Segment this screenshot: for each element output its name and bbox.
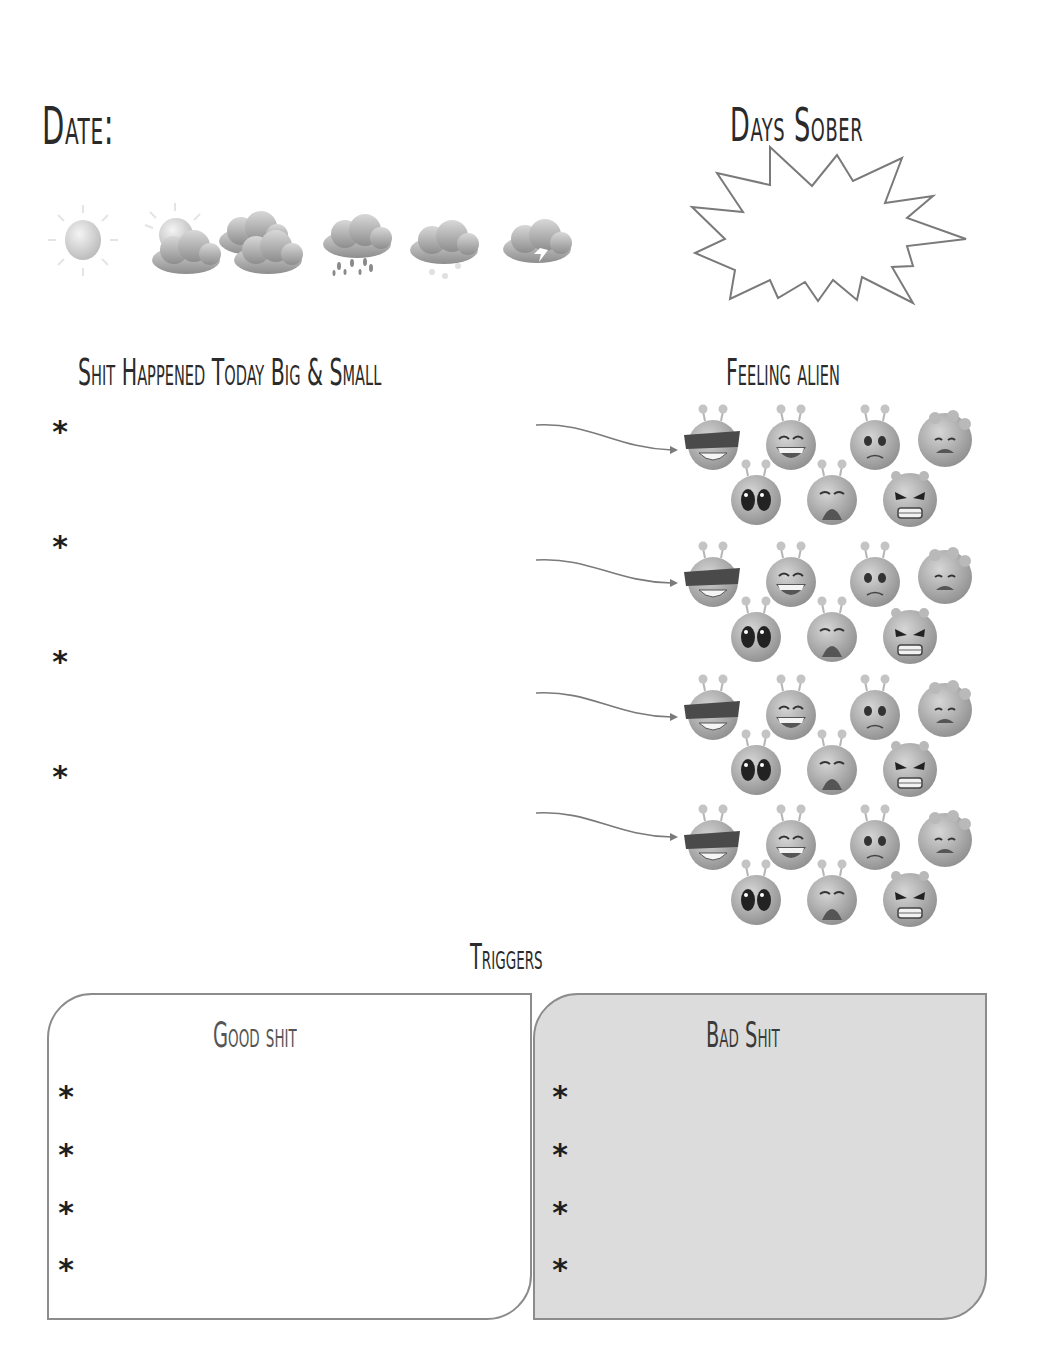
bad-triggers-title: Bad Shit [706,1014,780,1055]
good-bullet-2: * [58,1140,74,1170]
bad-bullet-4: * [552,1255,568,1285]
bad-bullet-3: * [552,1198,568,1228]
triggers-title: Triggers [470,936,543,977]
bad-entry-3[interactable] [580,1198,970,1232]
good-entry-4[interactable] [85,1255,515,1289]
good-bullet-4: * [58,1255,74,1285]
mood-group-2[interactable] [684,542,972,665]
mood-group-3[interactable] [684,675,972,798]
bad-entry-4[interactable] [580,1255,970,1289]
good-entry-3[interactable] [85,1198,515,1232]
bad-bullet-1: * [552,1082,568,1112]
bad-entry-1[interactable] [580,1082,970,1116]
good-triggers-title: Good shit [213,1014,297,1055]
bad-bullet-2: * [552,1140,568,1170]
good-entry-2[interactable] [85,1140,515,1174]
good-entry-1[interactable] [85,1082,515,1116]
good-bullet-1: * [58,1082,74,1112]
mood-group-1[interactable] [684,405,972,528]
bad-entry-2[interactable] [580,1140,970,1174]
good-bullet-3: * [58,1198,74,1228]
mood-group-4[interactable] [684,805,972,928]
